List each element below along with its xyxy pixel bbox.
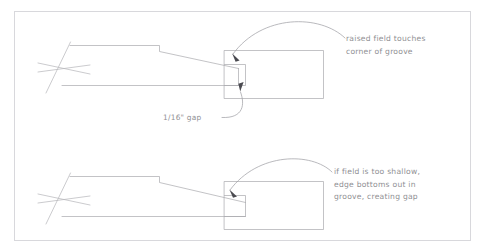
diagram-canvas: raised field touches corner of groove 1/… [0, 0, 484, 252]
figure-shallow-field: if field is too shallow, edge bottoms ou… [38, 159, 420, 230]
annotation-shallow-line2: edge bottoms out in [334, 180, 416, 189]
technical-drawing: raised field touches corner of groove 1/… [0, 0, 484, 252]
annotation-field-touches-line2: corner of groove [346, 47, 413, 56]
annotation-field-touches-line1: raised field touches [346, 34, 426, 43]
leader-line-gap [222, 92, 243, 118]
annotation-shallow-line1: if field is too shallow, [334, 167, 420, 176]
leader-line-shallow [230, 159, 332, 190]
leader-arrowhead-field-touches [232, 53, 239, 61]
annotation-gap-label: 1/16" gap [163, 113, 202, 122]
panel-top-profile [70, 46, 239, 69]
stile-outline [225, 182, 324, 230]
leader-arrowhead-gap [238, 82, 243, 91]
panel-top-profile [70, 177, 246, 203]
leader-line-field-touches [233, 22, 345, 54]
stile-outline [225, 51, 324, 99]
figure-correct-fit: raised field touches corner of groove 1/… [38, 22, 426, 122]
annotation-shallow-line3: groove, creating gap [334, 192, 418, 201]
leader-arrowhead-shallow [229, 190, 237, 198]
